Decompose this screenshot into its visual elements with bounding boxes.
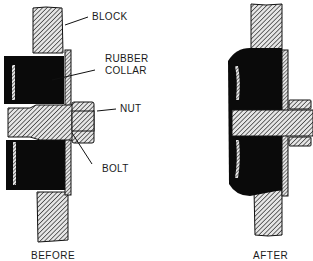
- after-assembly: AFTER: [228, 4, 313, 261]
- after-nut-lower: [289, 137, 311, 146]
- caption-after: AFTER: [253, 250, 288, 261]
- upper-block: [33, 7, 63, 53]
- caption-before: BEFORE: [31, 250, 75, 261]
- after-nut: [289, 100, 311, 109]
- collar-inner-edge-lower: [13, 142, 16, 185]
- bolt-shank: [72, 111, 94, 131]
- after-bolt: [232, 110, 313, 136]
- label-block: BLOCK: [92, 11, 127, 22]
- lower-block: [37, 192, 68, 242]
- block-leader: [65, 17, 88, 25]
- nut-leader: [97, 109, 116, 111]
- label-bolt: BOLT: [102, 163, 129, 174]
- after-lower-block: [254, 190, 282, 236]
- label-rubber: RUBBER: [105, 53, 148, 64]
- label-nut: NUT: [120, 103, 141, 114]
- before-assembly: BLOCK RUBBER COLLAR NUT BOLT BEFORE: [4, 7, 148, 261]
- collar-inner-edge: [12, 65, 15, 100]
- after-upper-block: [251, 4, 282, 53]
- rubber-collar-diagram: BLOCK RUBBER COLLAR NUT BOLT BEFORE AFTE…: [0, 0, 313, 261]
- label-collar: COLLAR: [105, 65, 147, 76]
